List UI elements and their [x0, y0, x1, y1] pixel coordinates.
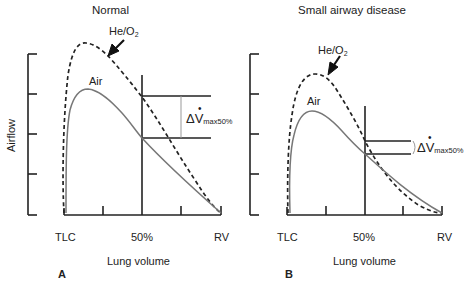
- panel-b-heo2-text: He/O: [318, 44, 344, 56]
- panel-a-air-label: Air: [89, 75, 102, 87]
- panel-a-x-tick-tlc: TLC: [55, 231, 76, 243]
- panel-b-air-curve: [290, 111, 442, 213]
- panel-a-plot: [28, 40, 221, 215]
- panel-a-y-label: Airflow: [5, 119, 17, 152]
- panel-b-title: Small airway disease: [298, 4, 406, 16]
- panel-b-x-tick-50: 50%: [353, 231, 375, 243]
- panel-b-plot: [250, 54, 442, 215]
- panel-b-letter: B: [285, 268, 293, 280]
- panel-a-x-tick-50: 50%: [131, 231, 153, 243]
- panel-a-x-label: Lung volume: [107, 255, 170, 267]
- panel-b-delta-sub: max50%: [434, 146, 463, 155]
- panel-a-title: Normal: [92, 4, 129, 16]
- panel-a-heo2-label: He/O2: [109, 25, 139, 37]
- panel-b-x-tick-rv: RV: [437, 231, 452, 243]
- panel-a-letter: A: [58, 268, 66, 280]
- panel-b-x-label: Lung volume: [333, 255, 396, 267]
- panel-a-delta-dot: •: [198, 104, 202, 114]
- panel-b-x-tick-tlc: TLC: [277, 231, 298, 243]
- panel-a-heo2-subscript: 2: [135, 31, 139, 38]
- panel-a-x-tick-rv: RV: [214, 231, 229, 243]
- panel-b-heo2-label: He/O2: [318, 44, 348, 56]
- panel-b-heo2-subscript: 2: [344, 50, 348, 57]
- panel-a-delta-label: ΔVmax50%: [186, 111, 233, 126]
- panel-a-heo2-text: He/O: [109, 25, 135, 37]
- panel-a-delta-sub: max50%: [203, 117, 232, 126]
- panel-b-y-axis: [250, 54, 259, 215]
- panel-a-heo2-arrow: [108, 40, 124, 56]
- panel-b-delta-bracket: [413, 141, 415, 154]
- panel-b-delta-label: ΔVmax50%: [417, 140, 464, 155]
- panel-b-delta-dot: •: [428, 133, 432, 143]
- panel-b-air-label: Air: [307, 95, 320, 107]
- panel-b-heo2-arrow: [328, 56, 340, 75]
- panel-a-y-axis: [28, 54, 37, 215]
